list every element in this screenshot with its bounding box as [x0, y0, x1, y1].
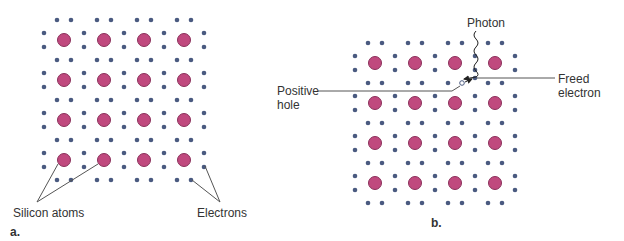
electron — [473, 94, 478, 99]
electron — [513, 174, 518, 179]
electron — [366, 161, 371, 166]
electron — [95, 138, 100, 143]
electron — [149, 138, 154, 143]
electron — [189, 18, 194, 23]
electron — [500, 121, 505, 126]
electron — [202, 111, 207, 116]
silicon-atom — [138, 74, 151, 87]
silicon-atom — [449, 57, 462, 70]
electron — [162, 45, 167, 50]
photon-label: Photon — [467, 16, 505, 30]
electron — [42, 151, 47, 156]
electron — [162, 165, 167, 170]
silicon-atom-leader-line — [37, 164, 58, 202]
electron — [500, 41, 505, 46]
electron — [55, 138, 60, 143]
electron — [175, 18, 180, 23]
electron — [122, 71, 127, 76]
panel-b-label: b. — [431, 216, 442, 230]
electron — [95, 178, 100, 183]
electron — [122, 31, 127, 36]
electron — [82, 165, 87, 170]
electron — [366, 81, 371, 86]
electron — [42, 125, 47, 130]
electron — [109, 18, 114, 23]
electron — [55, 178, 60, 183]
electron — [149, 58, 154, 63]
electron — [380, 41, 385, 46]
electron — [189, 98, 194, 103]
electron — [122, 125, 127, 130]
electron — [393, 148, 398, 153]
electron — [433, 148, 438, 153]
electron — [175, 138, 180, 143]
silicon-atom — [409, 177, 422, 190]
silicon-atom — [449, 137, 462, 150]
electron — [202, 151, 207, 156]
electron — [42, 85, 47, 90]
electron — [82, 85, 87, 90]
silicon-atoms-label: Silicon atoms — [13, 206, 84, 220]
electron — [202, 45, 207, 50]
electron — [420, 41, 425, 46]
silicon-atom — [138, 154, 151, 167]
electron — [69, 58, 74, 63]
electron — [109, 58, 114, 63]
electron — [353, 108, 358, 113]
electron — [433, 134, 438, 139]
silicon-atom — [178, 114, 191, 127]
electron — [380, 161, 385, 166]
electrons-label: Electrons — [197, 206, 247, 220]
electron — [366, 121, 371, 126]
electron — [69, 98, 74, 103]
electron — [500, 201, 505, 206]
electron — [366, 201, 371, 206]
electron — [460, 121, 465, 126]
electron — [433, 68, 438, 73]
electron — [202, 31, 207, 36]
electron — [513, 108, 518, 113]
silicon-atom — [178, 74, 191, 87]
silicon-atom — [489, 177, 502, 190]
electron — [486, 81, 491, 86]
silicon-atom — [489, 137, 502, 150]
electron — [353, 54, 358, 59]
silicon-atom — [58, 34, 71, 47]
electron — [135, 138, 140, 143]
electron — [82, 125, 87, 130]
electron — [406, 41, 411, 46]
electron — [380, 81, 385, 86]
electron — [513, 54, 518, 59]
electron — [433, 174, 438, 179]
electron — [135, 58, 140, 63]
electron — [95, 18, 100, 23]
electron — [353, 68, 358, 73]
electron — [42, 165, 47, 170]
electron — [162, 31, 167, 36]
electron — [433, 108, 438, 113]
electron — [460, 41, 465, 46]
silicon-atom — [449, 177, 462, 190]
electron — [513, 94, 518, 99]
electron — [393, 188, 398, 193]
electron — [122, 165, 127, 170]
panel-a-label: a. — [10, 225, 20, 239]
electron — [393, 94, 398, 99]
electron — [353, 94, 358, 99]
positive-hole — [460, 81, 465, 86]
electron — [202, 71, 207, 76]
silicon-atom — [178, 34, 191, 47]
silicon-atom — [369, 57, 382, 70]
electron — [42, 71, 47, 76]
electron — [162, 111, 167, 116]
electron — [446, 81, 451, 86]
electron — [122, 85, 127, 90]
silicon-atom — [98, 114, 111, 127]
silicon-atom — [98, 34, 111, 47]
electron — [189, 138, 194, 143]
positive-hole-label: Positive hole — [277, 84, 319, 112]
electron — [486, 161, 491, 166]
electron — [135, 178, 140, 183]
electron — [82, 151, 87, 156]
electron — [175, 58, 180, 63]
